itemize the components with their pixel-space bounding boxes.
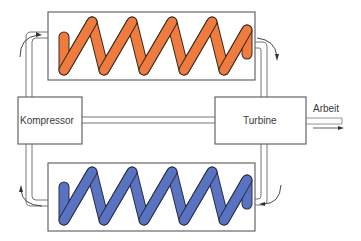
flow-arrow-top-left-icon bbox=[20, 32, 42, 57]
flow-arrow-top-right-icon bbox=[257, 38, 279, 61]
pipe-turbine-to-cold bbox=[255, 144, 267, 205]
turbine-label: Turbine bbox=[243, 116, 277, 126]
compressor-label: Kompressor bbox=[20, 116, 74, 126]
pipe-hot-to-turbine bbox=[255, 42, 267, 97]
flow-arrow-bottom-right-icon bbox=[259, 185, 281, 206]
output-arrow-icon bbox=[313, 126, 344, 130]
output-shaft bbox=[306, 118, 342, 124]
output-label: Arbeit bbox=[313, 104, 339, 114]
pipe-cold-to-compressor bbox=[26, 144, 48, 206]
flow-arrow-bottom-left-icon bbox=[19, 185, 42, 206]
shaft bbox=[82, 117, 215, 123]
pipe-compressor-to-hot bbox=[26, 32, 48, 97]
